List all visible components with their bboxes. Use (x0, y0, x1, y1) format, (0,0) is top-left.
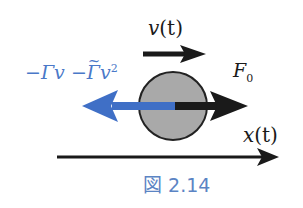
position-arg: (t) (254, 123, 278, 147)
position-axis-arrow (57, 148, 279, 166)
drag-term2-coef-wrap: ~Γ (87, 63, 100, 82)
drag-force-label: −Γv −~Γv2 (25, 63, 118, 82)
drag-term2-var: v (100, 61, 111, 83)
velocity-arg: (t) (159, 16, 183, 40)
position-label: x(t) (243, 125, 278, 145)
drag-term1-sign: − (25, 61, 41, 83)
force-subscript: 0 (246, 72, 253, 85)
force-symbol: F (233, 59, 246, 81)
figure-caption: 図 2.14 (143, 176, 210, 195)
velocity-arrow (143, 45, 206, 63)
force-label: F0 (233, 61, 253, 84)
position-symbol: x (243, 123, 254, 147)
drag-term2-power: 2 (111, 62, 118, 75)
drag-term1-var: v (54, 61, 65, 83)
velocity-symbol: v (148, 16, 159, 40)
velocity-label: v(t) (148, 18, 183, 38)
tilde-accent: ~ (88, 54, 101, 69)
drag-term1-coef: Γ (41, 61, 54, 83)
drag-term2-sign: − (71, 61, 87, 83)
figure-2-14: v(t) F0 −Γv −~Γv2 x(t) 図 2.14 (0, 0, 303, 208)
